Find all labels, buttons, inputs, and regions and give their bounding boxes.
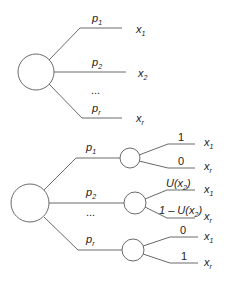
sub-value-1b: 0 bbox=[178, 155, 184, 167]
bottom-prob-r: pr bbox=[85, 233, 95, 247]
sub-value-ra: 0 bbox=[180, 224, 186, 236]
sub-value-1a: 1 bbox=[178, 131, 184, 143]
top-prob-r: pr bbox=[91, 102, 101, 116]
sub-branch-ra bbox=[143, 237, 198, 246]
sub-outcome-2b: xr bbox=[203, 210, 213, 224]
sub-branch-1a bbox=[139, 144, 195, 155]
top-branch-r bbox=[49, 84, 122, 118]
bottom-prob-2: p2 bbox=[85, 186, 96, 200]
top-tree: p1 x1 p2 x2 ... pr xr bbox=[18, 12, 148, 126]
sub-outcome-ra: x1 bbox=[203, 230, 214, 244]
sub-outcome-2a: x1 bbox=[203, 183, 214, 197]
top-outcome-r: xr bbox=[135, 112, 145, 126]
lottery-diagram: p1 x1 p2 x2 ... pr xr p1 1 0 x1 xr p2 ..… bbox=[0, 0, 225, 283]
sub-value-2a: U(x2) bbox=[166, 177, 191, 191]
bottom-branch-r bbox=[44, 217, 122, 250]
bottom-ellipsis: ... bbox=[86, 206, 95, 218]
top-outcome-2: x2 bbox=[137, 67, 148, 81]
sub-outcome-1b: xr bbox=[203, 160, 213, 174]
sub-branch-2a bbox=[145, 190, 195, 199]
top-prob-2: p2 bbox=[91, 56, 102, 70]
sub-branch-rb bbox=[143, 254, 198, 263]
bottom-sub-node-r bbox=[122, 239, 144, 261]
top-prob-1: p1 bbox=[91, 12, 102, 26]
sub-outcome-rb: xr bbox=[203, 256, 213, 270]
bottom-branch-1 bbox=[44, 158, 120, 190]
bottom-sub-node-2 bbox=[124, 192, 146, 214]
bottom-prob-1: p1 bbox=[85, 141, 96, 155]
bottom-chance-node bbox=[11, 184, 49, 222]
bottom-tree: p1 1 0 x1 xr p2 ... U(x2) 1 – U(x2) x1 x… bbox=[11, 131, 214, 270]
bottom-sub-node-1 bbox=[120, 148, 140, 168]
sub-value-2b: 1 – U(x2) bbox=[159, 204, 202, 218]
sub-branch-1b bbox=[139, 161, 195, 168]
sub-value-rb: 1 bbox=[181, 250, 187, 262]
top-outcome-1: x1 bbox=[135, 23, 146, 37]
top-branch-1 bbox=[49, 28, 122, 60]
top-chance-node bbox=[18, 54, 54, 90]
top-ellipsis: ... bbox=[91, 84, 100, 96]
sub-outcome-1a: x1 bbox=[203, 136, 214, 150]
